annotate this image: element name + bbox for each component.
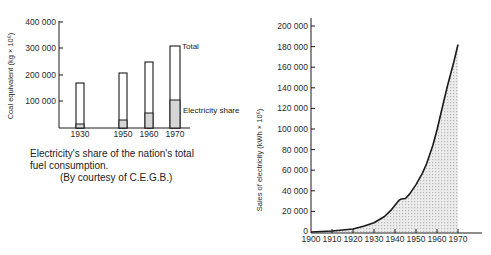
right-xtick-1900: 1900 [302, 234, 321, 244]
right-xtick-1940: 1940 [386, 234, 405, 244]
right-xtick-1930: 1930 [365, 234, 384, 244]
left-y-axis-title: Coal equivalent (kg × 10⁶) [6, 32, 15, 119]
right-ytick-80000: 80 000 [282, 145, 308, 155]
left-y-ticks [59, 22, 63, 101]
caption-credit: (By courtesy of C.E.G.B.) [30, 172, 250, 184]
right-ytick-40000: 40 000 [282, 186, 308, 196]
sales-area-fill [311, 45, 458, 233]
left-ytick-200000: 200 000 [25, 70, 56, 80]
bar-electricity-1950 [119, 120, 127, 128]
label-electricity-share: Electricity share [183, 106, 240, 115]
figure: Coal equivalent (kg × 10⁶) 400 000 300 0… [0, 0, 491, 255]
right-y-axis-title: Sales of electricity (kWh × 10⁶) [255, 108, 264, 211]
right-ytick-180000: 180 000 [277, 42, 308, 52]
right-ytick-100000: 100 000 [277, 124, 308, 134]
left-ytick-100000: 100 000 [25, 96, 56, 106]
left-ytick-400000: 400 000 [25, 17, 56, 27]
label-total: Total [182, 42, 199, 51]
right-xtick-1910: 1910 [323, 234, 342, 244]
left-xtick-1930: 1930 [71, 129, 90, 139]
left-ytick-300000: 300 000 [25, 43, 56, 53]
bar-electricity-1930 [76, 124, 84, 128]
right-ytick-140000: 140 000 [277, 83, 308, 93]
left-chart-caption: Electricity's share of the nation's tota… [30, 148, 250, 184]
right-area-chart: Sales of electricity (kWh × 10⁶) 200 000… [255, 18, 482, 244]
left-xtick-1950: 1950 [114, 129, 133, 139]
right-ytick-160000: 160 000 [277, 62, 308, 72]
right-xtick-1970: 1970 [449, 234, 468, 244]
right-xtick-1920: 1920 [344, 234, 363, 244]
left-xtick-1960: 1960 [140, 129, 159, 139]
bar-electricity-1970 [170, 100, 180, 128]
caption-line-2: fuel consumption. [30, 160, 108, 171]
right-ytick-120000: 120 000 [277, 103, 308, 113]
right-ytick-20000: 20 000 [282, 206, 308, 216]
right-xtick-1960: 1960 [428, 234, 447, 244]
right-y-ticks [311, 26, 315, 211]
caption-line-1: Electricity's share of the nation's tota… [30, 148, 194, 159]
left-bar-chart: Coal equivalent (kg × 10⁶) 400 000 300 0… [6, 17, 240, 139]
right-xtick-1950: 1950 [407, 234, 426, 244]
bar-total-1930 [76, 83, 84, 128]
right-ytick-200000: 200 000 [277, 21, 308, 31]
right-ytick-60000: 60 000 [282, 165, 308, 175]
bar-electricity-1960 [145, 113, 153, 128]
left-xtick-1970: 1970 [166, 129, 185, 139]
